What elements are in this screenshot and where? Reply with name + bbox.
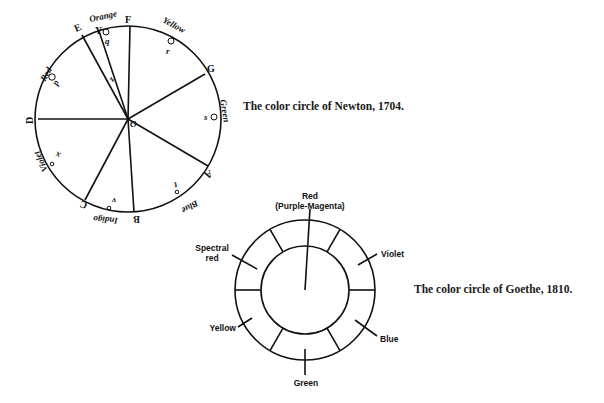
- letter-D: D: [24, 117, 35, 124]
- label-green: Green: [294, 378, 319, 388]
- goethe-caption: The color circle of Goethe, 1810.: [414, 283, 572, 295]
- radius-C: [85, 119, 128, 200]
- newton-circle: F G A B C D E Y O Orange Yellow Green Bl…: [24, 8, 232, 226]
- radius-A: [128, 119, 208, 166]
- violet-leader: [358, 254, 377, 265]
- label-green: Green: [218, 99, 232, 123]
- red-pointer-line: [305, 209, 310, 290]
- letter-B: B: [133, 214, 140, 225]
- label-violet: Violet: [381, 249, 404, 259]
- goethe-circle: Red (Purple-Magenta) Violet Blue Green Y…: [195, 191, 404, 388]
- spectral-red-leader: [232, 255, 257, 269]
- radius-B: [128, 119, 134, 212]
- label-red: Red: [302, 191, 318, 201]
- label-purple-magenta: (Purple-Magenta): [275, 201, 345, 211]
- label-yellow: Yellow: [210, 323, 237, 333]
- label-violet: Violet: [31, 149, 49, 173]
- point-s: s: [203, 112, 208, 122]
- label-blue: Blue: [180, 198, 201, 216]
- letter-G: G: [207, 63, 215, 74]
- color-circles-figure: F G A B C D E Y O Orange Yellow Green Bl…: [0, 0, 604, 403]
- point-x: x: [54, 149, 63, 160]
- point-q: q: [105, 36, 110, 46]
- letter-F: F: [125, 14, 131, 25]
- marker-x: [50, 162, 54, 166]
- point-v: v: [111, 196, 116, 206]
- center-O: O: [130, 119, 137, 129]
- label-orange: Orange: [88, 8, 117, 24]
- letter-Y: Y: [95, 25, 103, 36]
- point-p: p: [50, 78, 62, 88]
- marker-s: [211, 114, 217, 120]
- label-indigo: Indigo: [92, 214, 119, 226]
- radius-G: [128, 74, 205, 119]
- marker-r: [168, 38, 174, 44]
- blue-leader: [355, 320, 377, 336]
- label-blue: Blue: [380, 334, 399, 344]
- marker-q: [103, 29, 109, 35]
- letter-C: C: [78, 199, 89, 212]
- radius-F: [128, 26, 130, 119]
- letter-E: E: [72, 21, 83, 34]
- label-yellow: Yellow: [161, 15, 188, 36]
- label-spectral: Spectral: [195, 243, 229, 253]
- label-spectral-red: red: [205, 253, 218, 263]
- point-t: t: [172, 180, 178, 190]
- newton-caption: The color circle of Newton, 1704.: [243, 100, 404, 112]
- letter-A: A: [202, 168, 214, 182]
- point-r: r: [166, 46, 170, 56]
